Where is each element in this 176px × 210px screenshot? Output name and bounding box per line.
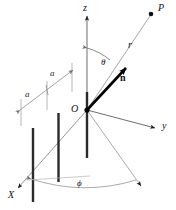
spacing-label-a: a [25,90,30,99]
y-axis-label: y [162,121,166,131]
x-axis-label: X [8,190,14,200]
r-length-label: r [128,40,132,50]
spacing-label-a: a [50,69,55,78]
phi-angle-label: ϕ [77,179,82,188]
spherical-coordinate-diagram: z y X O P n r θ ϕ a a [0,0,176,210]
z-axis-label: z [83,3,87,13]
radial-ray-r [87,12,153,110]
diagram-canvas [0,0,176,210]
y-axis [87,110,155,128]
origin-dot [84,107,89,112]
origin-label: O [71,104,78,114]
theta-arc [87,48,110,60]
theta-angle-label: θ [101,58,105,67]
point-p-label: P [158,3,164,13]
x-axis [18,110,87,188]
n-vector-label: n [120,73,126,83]
